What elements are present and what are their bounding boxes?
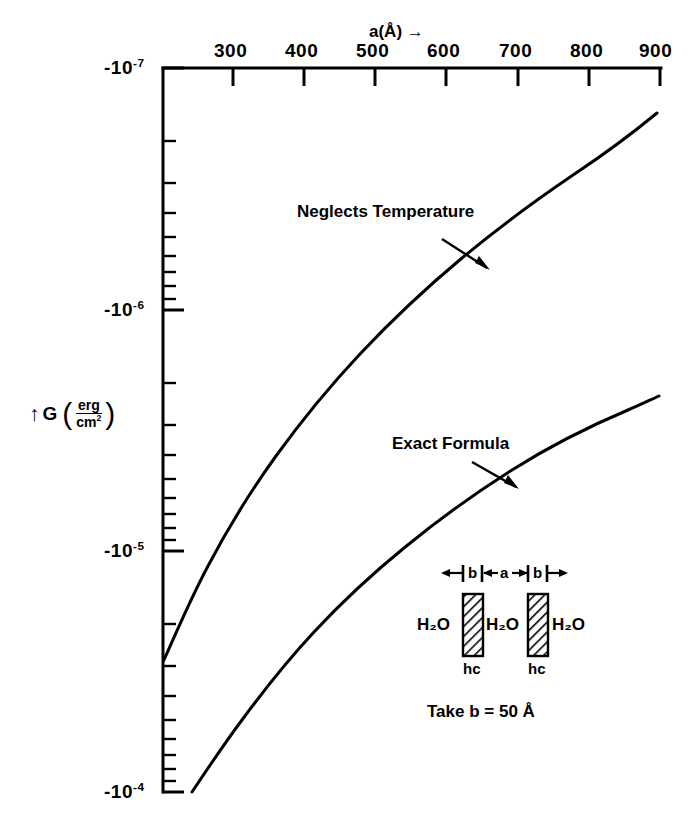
curve-label-neglects-temperature: Neglects Temperature <box>297 203 474 220</box>
y-tick-mantissa: -10 <box>104 57 133 78</box>
leader-neglects-temperature <box>442 239 490 270</box>
unit-denominator-exponent: 2 <box>97 413 102 423</box>
y-tick-mantissa: -10 <box>104 299 133 320</box>
x-tick-label-800: 800 <box>570 41 603 60</box>
y-tick-label-1e-4: -10-4 <box>104 781 144 801</box>
curve-label-exact-formula: Exact Formula <box>392 435 509 452</box>
y-axis-unit-fraction: erg cm2 <box>74 398 103 429</box>
y-tick-mantissa: -10 <box>104 781 133 802</box>
inset-water-label-left: H₂O <box>417 616 450 633</box>
left-paren: ( <box>62 399 72 429</box>
curve-neglects-temperature <box>164 113 657 660</box>
x-tick-label-300: 300 <box>214 41 247 60</box>
curve-exact-formula <box>192 396 659 792</box>
y-tick-exponent: -7 <box>133 56 144 69</box>
x-axis-title-text: a(Å) → <box>369 22 424 41</box>
inset-water-label-right: H₂O <box>552 616 585 633</box>
inset-note-take-b: Take b = 50 Å <box>427 703 535 720</box>
inset-dim-label-b-right: b <box>533 565 542 580</box>
y-tick-label-1e-5: -10-5 <box>104 540 144 560</box>
unit-denominator: cm2 <box>74 414 103 429</box>
x-tick-label-700: 700 <box>499 41 532 60</box>
unit-numerator: erg <box>76 398 102 414</box>
inset-water-label-middle: H₂O <box>486 616 519 633</box>
y-tick-label-1e-6: -10-6 <box>104 299 144 319</box>
y-tick-label-1e-7: -10-7 <box>104 57 144 77</box>
hc-slab-left <box>463 594 483 656</box>
figure-root: a(Å) → 300 400 500 600 700 800 900 -10-7… <box>0 0 696 828</box>
x-axis-title: a(Å) → <box>369 23 424 40</box>
y-axis-title: ↑ G ( erg cm2 ) <box>29 398 117 429</box>
x-tick-label-600: 600 <box>427 41 460 60</box>
inset-dim-label-a: a <box>500 565 508 580</box>
right-paren: ) <box>105 399 115 429</box>
x-tick-label-400: 400 <box>285 41 318 60</box>
y-tick-exponent: -6 <box>133 298 144 311</box>
x-axis-ticks <box>233 68 660 86</box>
y-tick-mantissa: -10 <box>104 540 133 561</box>
y-tick-exponent: -4 <box>133 780 144 793</box>
y-axis-symbol: G <box>43 403 58 425</box>
inset-dim-label-b-left: b <box>468 565 477 580</box>
unit-denominator-text: cm <box>76 413 96 429</box>
x-tick-label-500: 500 <box>356 41 389 60</box>
up-arrow-icon: ↑ <box>29 403 40 424</box>
x-tick-label-900: 900 <box>639 41 672 60</box>
inset-hc-label-left: hc <box>463 661 481 676</box>
hc-slab-right <box>528 594 548 656</box>
y-tick-exponent: -5 <box>133 539 144 552</box>
y-axis-ticks <box>163 68 184 792</box>
leader-exact-formula <box>472 462 519 489</box>
inset-hc-label-right: hc <box>528 661 546 676</box>
